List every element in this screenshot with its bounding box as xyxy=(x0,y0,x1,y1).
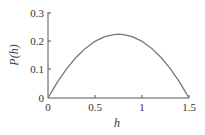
y-tick-label: 0.2 xyxy=(30,35,44,47)
y-tick-label: 0.3 xyxy=(30,7,44,19)
x-tick-label: 0.5 xyxy=(88,101,102,113)
x-tick-label: 0 xyxy=(45,101,51,113)
x-tick-label: 1 xyxy=(139,101,145,113)
x-tick-label: 1.5 xyxy=(182,101,196,113)
y-tick-label: 0.1 xyxy=(30,63,44,75)
y-tick-label: 0 xyxy=(39,92,45,104)
y-axis-label: P(h) xyxy=(7,44,21,66)
data-curve xyxy=(48,34,189,98)
chart: 0.3 0.2 0.1 0 0 0.5 1 1.5 h P(h) xyxy=(0,0,205,135)
x-axis-label: h xyxy=(114,116,120,130)
